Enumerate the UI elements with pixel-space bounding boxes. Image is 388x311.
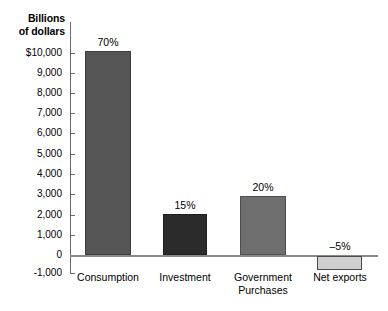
- category-label-line: Consumption: [66, 271, 150, 284]
- bar-government-purchases: [240, 196, 286, 255]
- y-axis-tick: [70, 113, 75, 114]
- y-axis-title-line-2: of dollars: [8, 25, 65, 38]
- y-axis-line: [70, 22, 71, 274]
- y-axis-tick-label: $10,000: [0, 48, 62, 58]
- y-axis-tick: [70, 174, 75, 175]
- bar-investment: [163, 214, 207, 255]
- y-axis-tick-label: 9,000: [0, 68, 62, 78]
- bar-net-exports: [317, 256, 362, 270]
- y-axis-tick: [70, 93, 75, 94]
- y-axis-tick: [70, 194, 75, 195]
- category-label-consumption: Consumption: [66, 271, 150, 284]
- category-label-net-exports: Net exports: [300, 271, 380, 284]
- value-label-government-purchases: 20%: [238, 182, 288, 193]
- y-axis-tick: [70, 73, 75, 74]
- y-axis-tick-label: 1,000: [0, 230, 62, 240]
- gdp-components-bar-chart: Billions of dollars $10,000 9,000 8,000 …: [0, 0, 388, 311]
- y-axis-tick: [70, 235, 75, 236]
- y-axis-tick-label: 4,000: [0, 169, 62, 179]
- y-axis-tick-label: 3,000: [0, 189, 62, 199]
- y-axis-tick-label: 6,000: [0, 128, 62, 138]
- category-label-line: Net exports: [300, 271, 380, 284]
- y-axis-title-line-1: Billions: [8, 12, 65, 25]
- y-axis-tick-label: 2,000: [0, 210, 62, 220]
- y-axis-tick: [70, 133, 75, 134]
- y-axis-tick-label: 7,000: [0, 108, 62, 118]
- y-axis-title: Billions of dollars: [8, 12, 65, 37]
- value-label-net-exports: –5%: [315, 241, 365, 252]
- y-axis-tick: [70, 53, 75, 54]
- y-axis-tick-label: -1,000: [0, 268, 62, 278]
- y-axis-tick-label: 8,000: [0, 88, 62, 98]
- category-label-government-purchases: Government Purchases: [222, 271, 304, 296]
- value-label-investment: 15%: [160, 200, 210, 211]
- value-label-consumption: 70%: [83, 37, 133, 48]
- category-label-line: Government: [222, 271, 304, 284]
- y-axis-tick-label: 0: [0, 250, 62, 260]
- category-label-line: Investment: [145, 271, 225, 284]
- category-label-investment: Investment: [145, 271, 225, 284]
- y-axis-tick: [70, 154, 75, 155]
- y-axis-tick-label: 5,000: [0, 149, 62, 159]
- category-label-line: Purchases: [222, 284, 304, 297]
- y-axis-tick: [70, 215, 75, 216]
- bar-consumption: [85, 51, 131, 255]
